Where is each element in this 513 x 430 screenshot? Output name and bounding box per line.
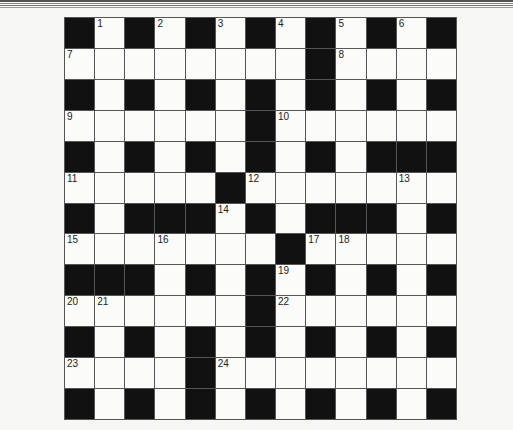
answer-cell[interactable] [397,265,426,295]
answer-cell[interactable] [427,358,456,388]
answer-cell[interactable] [367,173,396,203]
answer-cell[interactable]: 12 [246,173,275,203]
answer-cell[interactable]: 4 [276,18,305,48]
answer-cell[interactable]: 3 [216,18,245,48]
answer-cell[interactable] [336,111,365,141]
answer-cell[interactable] [155,327,184,357]
answer-cell[interactable] [216,80,245,110]
answer-cell[interactable]: 9 [65,111,94,141]
answer-cell[interactable] [276,327,305,357]
answer-cell[interactable] [397,111,426,141]
answer-cell[interactable] [125,296,154,326]
answer-cell[interactable] [155,173,184,203]
answer-cell[interactable] [276,49,305,79]
answer-cell[interactable] [125,49,154,79]
answer-cell[interactable] [397,234,426,264]
answer-cell[interactable] [216,389,245,419]
answer-cell[interactable] [336,142,365,172]
answer-cell[interactable] [125,358,154,388]
answer-cell[interactable] [155,358,184,388]
answer-cell[interactable] [336,358,365,388]
answer-cell[interactable] [276,389,305,419]
answer-cell[interactable] [95,80,124,110]
answer-cell[interactable] [397,80,426,110]
answer-cell[interactable] [155,111,184,141]
answer-cell[interactable] [246,358,275,388]
answer-cell[interactable] [216,142,245,172]
answer-cell[interactable]: 24 [216,358,245,388]
answer-cell[interactable]: 7 [65,49,94,79]
answer-cell[interactable] [95,234,124,264]
answer-cell[interactable] [367,111,396,141]
answer-cell[interactable] [186,173,215,203]
answer-cell[interactable]: 18 [336,234,365,264]
answer-cell[interactable]: 13 [397,173,426,203]
answer-cell[interactable]: 16 [155,234,184,264]
answer-cell[interactable] [155,265,184,295]
answer-cell[interactable]: 20 [65,296,94,326]
answer-cell[interactable] [427,296,456,326]
answer-cell[interactable]: 6 [397,18,426,48]
answer-cell[interactable]: 23 [65,358,94,388]
answer-cell[interactable] [95,142,124,172]
answer-cell[interactable] [216,327,245,357]
answer-cell[interactable] [276,142,305,172]
answer-cell[interactable] [95,173,124,203]
answer-cell[interactable]: 14 [216,204,245,234]
answer-cell[interactable] [306,173,335,203]
answer-cell[interactable] [95,49,124,79]
answer-cell[interactable] [276,173,305,203]
answer-cell[interactable] [397,327,426,357]
answer-cell[interactable]: 11 [65,173,94,203]
answer-cell[interactable] [125,173,154,203]
answer-cell[interactable] [367,234,396,264]
answer-cell[interactable]: 19 [276,265,305,295]
answer-cell[interactable] [306,111,335,141]
answer-cell[interactable]: 8 [336,49,365,79]
answer-cell[interactable] [216,111,245,141]
answer-cell[interactable] [276,358,305,388]
answer-cell[interactable] [397,358,426,388]
answer-cell[interactable] [216,265,245,295]
answer-cell[interactable] [367,358,396,388]
answer-cell[interactable] [427,111,456,141]
answer-cell[interactable]: 15 [65,234,94,264]
answer-cell[interactable] [216,49,245,79]
answer-cell[interactable] [336,389,365,419]
answer-cell[interactable] [216,296,245,326]
answer-cell[interactable] [427,173,456,203]
answer-cell[interactable] [306,296,335,326]
answer-cell[interactable] [186,49,215,79]
answer-cell[interactable] [397,49,426,79]
answer-cell[interactable] [336,265,365,295]
answer-cell[interactable] [155,80,184,110]
answer-cell[interactable] [367,296,396,326]
answer-cell[interactable]: 17 [306,234,335,264]
answer-cell[interactable] [125,234,154,264]
answer-cell[interactable] [276,204,305,234]
answer-cell[interactable] [336,173,365,203]
answer-cell[interactable] [155,389,184,419]
answer-cell[interactable]: 1 [95,18,124,48]
answer-cell[interactable] [427,49,456,79]
answer-cell[interactable] [95,111,124,141]
answer-cell[interactable]: 2 [155,18,184,48]
answer-cell[interactable]: 22 [276,296,305,326]
answer-cell[interactable] [397,296,426,326]
answer-cell[interactable] [95,358,124,388]
answer-cell[interactable] [155,296,184,326]
answer-cell[interactable] [186,234,215,264]
answer-cell[interactable] [336,327,365,357]
answer-cell[interactable] [95,204,124,234]
answer-cell[interactable]: 5 [336,18,365,48]
answer-cell[interactable] [216,234,245,264]
answer-cell[interactable] [397,204,426,234]
answer-cell[interactable] [397,389,426,419]
answer-cell[interactable] [306,358,335,388]
answer-cell[interactable] [246,49,275,79]
answer-cell[interactable] [427,234,456,264]
answer-cell[interactable] [276,80,305,110]
answer-cell[interactable] [95,389,124,419]
answer-cell[interactable] [246,234,275,264]
answer-cell[interactable] [186,296,215,326]
